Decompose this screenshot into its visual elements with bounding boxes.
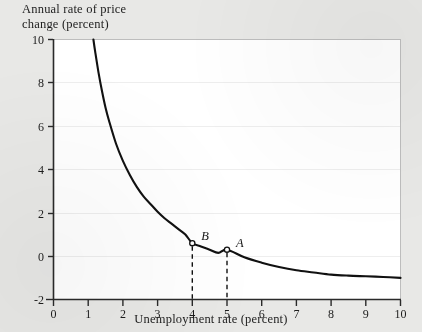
data-point-a	[224, 247, 229, 252]
data-point-b	[190, 241, 195, 246]
point-label-b: B	[201, 229, 209, 244]
y-tick-6: 6	[18, 120, 44, 135]
y-tick-8: 8	[18, 76, 44, 91]
x-axis-title: Unemployment rate (percent)	[0, 312, 422, 327]
phillips-curve-figure: Annual rate of pricechange (percent)	[0, 0, 422, 332]
y-tick-minus-2: -2	[18, 293, 44, 308]
point-label-a: A	[236, 236, 244, 251]
y-tick-2: 2	[18, 207, 44, 222]
y-axis-ticks	[46, 40, 53, 300]
plot-canvas	[0, 0, 422, 332]
y-tick-4: 4	[18, 163, 44, 178]
x-axis-ticks	[54, 300, 401, 306]
y-tick-0: 0	[18, 250, 44, 265]
y-tick-10: 10	[18, 33, 44, 48]
